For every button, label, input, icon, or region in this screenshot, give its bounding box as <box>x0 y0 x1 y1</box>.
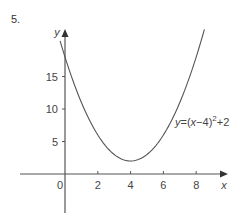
y-axis-label: y <box>53 26 61 38</box>
x-tick-label-4: 4 <box>128 179 134 191</box>
parabola-graph: 0 2 4 6 8 5 10 15 x y y=(x−4)2+2 <box>0 0 244 215</box>
y-tick-label-15: 15 <box>46 71 58 83</box>
x-tick-label-2: 2 <box>95 179 101 191</box>
equation-label: y=(x−4)2+2 <box>174 114 229 128</box>
x-axis-arrow-icon <box>220 171 228 178</box>
y-axis-arrow-icon <box>62 29 69 37</box>
x-axis-label: x <box>220 179 227 191</box>
y-tick-label-10: 10 <box>46 103 58 115</box>
x-tick-label-8: 8 <box>193 179 199 191</box>
origin-label: 0 <box>57 179 63 191</box>
x-tick-label-6: 6 <box>160 179 166 191</box>
y-tick-label-5: 5 <box>52 136 58 148</box>
parabola-curve <box>60 29 204 161</box>
